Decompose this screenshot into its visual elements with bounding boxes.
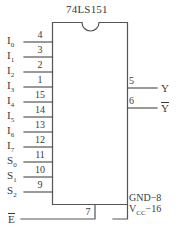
pin-number-10: 10 <box>31 165 49 175</box>
pin-number-15: 15 <box>31 90 49 100</box>
pin-number-6: 6 <box>129 96 143 106</box>
lead-power <box>113 205 128 220</box>
ic-pinout-diagram: 74LS151 I0 I1 I2 I3 I4 I5 I6 I7 S0 S1 S2… <box>0 0 178 236</box>
signal-label-i7: I7 <box>7 140 14 154</box>
power-pin-callouts: GND−8 VCC−16 <box>129 192 161 219</box>
pin-number-7: 7 <box>79 207 97 217</box>
pin-number-9: 9 <box>31 180 49 190</box>
pin-number-4: 4 <box>31 30 49 40</box>
pin-number-12: 12 <box>31 135 49 145</box>
output-label-y: Y <box>161 83 169 94</box>
pin-number-3: 3 <box>31 45 49 55</box>
signal-label-i1: I1 <box>7 50 14 64</box>
pin-number-2: 2 <box>31 60 49 70</box>
chip-type-label: 74LS151 <box>66 4 108 15</box>
vcc-pin-label: VCC−16 <box>129 203 161 219</box>
gnd-pin-label: GND−8 <box>129 192 161 203</box>
pin-number-14: 14 <box>31 105 49 115</box>
signal-label-s0: S0 <box>7 155 17 169</box>
pin-number-13: 13 <box>31 120 49 130</box>
signal-label-s1: S1 <box>7 170 17 184</box>
signal-label-s2: S2 <box>7 185 17 199</box>
signal-label-i3: I3 <box>7 80 14 94</box>
signal-label-i4: I4 <box>7 95 14 109</box>
chip-body-outline <box>53 23 128 205</box>
pin-number-5: 5 <box>129 76 143 86</box>
signal-label-i6: I6 <box>7 125 14 139</box>
pin-number-11: 11 <box>31 150 49 160</box>
signal-label-i2: I2 <box>7 65 14 79</box>
pin-number-1: 1 <box>31 75 49 85</box>
enable-label: E <box>8 213 15 225</box>
signal-label-i5: I5 <box>7 110 14 124</box>
output-label-y-bar: Y <box>161 102 169 114</box>
signal-label-i0: I0 <box>7 35 14 49</box>
